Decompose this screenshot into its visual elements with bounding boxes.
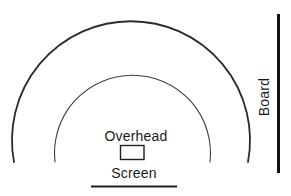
board-label: Board (257, 78, 271, 116)
screen-label: Screen (111, 166, 157, 180)
overhead-label: Overhead (104, 129, 167, 143)
overhead-projector-box (121, 146, 145, 160)
lecture-hall-diagram: Overhead Screen Board (0, 0, 291, 196)
